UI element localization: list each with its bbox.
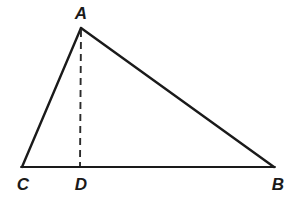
vertex-label-c: C xyxy=(17,175,30,194)
segment-ca xyxy=(22,28,81,167)
vertex-label-d: D xyxy=(75,175,87,194)
vertex-label-b: B xyxy=(272,175,284,194)
segment-ad-altitude xyxy=(80,30,81,166)
segment-ab xyxy=(81,28,274,167)
triangle-diagram-svg: A C D B xyxy=(0,0,295,208)
geometry-figure: A C D B xyxy=(0,0,295,208)
vertex-label-a: A xyxy=(74,4,87,23)
